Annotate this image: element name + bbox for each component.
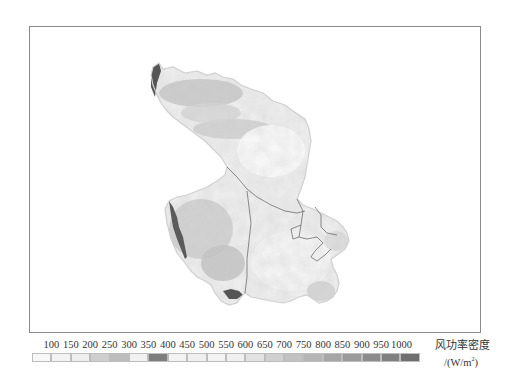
legend-swatch <box>362 353 381 362</box>
legend-swatch <box>32 353 51 362</box>
legend-tick: 650 <box>257 339 273 351</box>
legend-swatch <box>71 353 90 362</box>
legend-swatch <box>148 353 167 362</box>
legend-tick: 250 <box>102 339 118 351</box>
legend-swatch <box>245 353 264 362</box>
legend-swatch <box>400 353 419 362</box>
legend-tick: 950 <box>373 339 389 351</box>
legend-tick: 900 <box>354 339 370 351</box>
legend-tick: 600 <box>238 339 254 351</box>
legend-tick: 450 <box>179 339 195 351</box>
legend-unit: /(W/m2) <box>444 353 478 369</box>
legend-swatch <box>342 353 361 362</box>
wind-power-density-map <box>30 27 482 334</box>
legend-tick: 1000 <box>391 339 412 351</box>
legend-tick: 400 <box>160 339 176 351</box>
legend-swatch <box>381 353 400 362</box>
legend-tick: 350 <box>141 339 157 351</box>
legend-swatch <box>226 353 245 362</box>
legend-tick: 100 <box>44 339 60 351</box>
legend-tick: 750 <box>296 339 312 351</box>
legend-tick: 300 <box>121 339 137 351</box>
legend-swatch <box>168 353 187 362</box>
legend: 100 150 200 250 300 350 400 450 500 550 … <box>32 339 508 368</box>
legend-tick: 500 <box>199 339 215 351</box>
legend-swatch <box>207 353 226 362</box>
legend-title: 风功率密度 <box>435 339 490 351</box>
legend-tick-labels: 100 150 200 250 300 350 400 450 500 550 … <box>32 339 432 351</box>
legend-swatch <box>129 353 148 362</box>
legend-swatch <box>90 353 109 362</box>
legend-tick: 800 <box>315 339 331 351</box>
map-frame <box>29 26 481 333</box>
legend-tick: 200 <box>82 339 98 351</box>
legend-color-bar <box>32 353 420 362</box>
legend-tick: 550 <box>218 339 234 351</box>
legend-tick: 850 <box>335 339 351 351</box>
legend-unit-prefix: /(W/m <box>444 357 471 368</box>
legend-swatch <box>323 353 342 362</box>
legend-swatch <box>303 353 322 362</box>
legend-swatch <box>284 353 303 362</box>
legend-swatch <box>265 353 284 362</box>
legend-tick: 700 <box>276 339 292 351</box>
legend-swatch <box>110 353 129 362</box>
legend-tick: 150 <box>63 339 79 351</box>
legend-swatch <box>51 353 70 362</box>
legend-swatch <box>187 353 206 362</box>
legend-unit-suffix: ) <box>474 357 478 368</box>
